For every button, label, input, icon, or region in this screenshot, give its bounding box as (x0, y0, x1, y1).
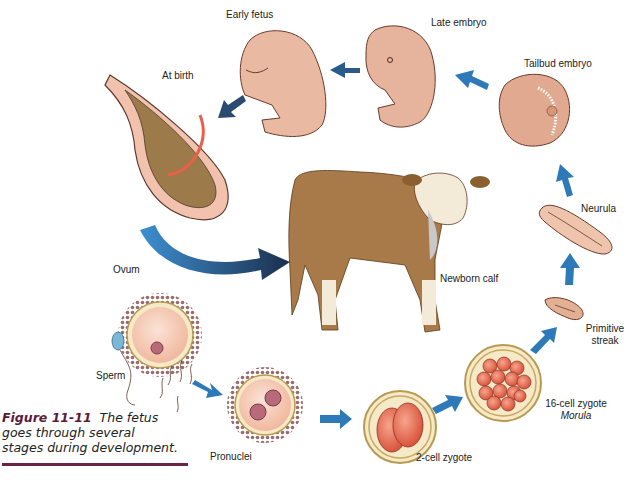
label-late-embryo: Late embryo (431, 17, 487, 29)
label-morula: Morula (536, 410, 616, 422)
caption-line-3: stages during development. (2, 440, 178, 455)
at-birth-illustration (105, 75, 228, 220)
tailbud-embryo-illustration (499, 74, 569, 146)
label-ovum: Ovum (113, 264, 140, 276)
figure-number: Figure 11-11 (2, 410, 92, 425)
morula-illustration (465, 345, 541, 421)
label-primitive-streak: Primitive streak (580, 323, 630, 347)
newborn-calf-illustration (289, 170, 490, 332)
label-at-birth: At birth (162, 70, 194, 82)
pronuclei-illustration (227, 367, 303, 443)
label-sperm: Sperm (96, 370, 125, 382)
caption-divider (2, 463, 188, 466)
label-pronuclei: Pronuclei (210, 451, 252, 463)
caption-line-2: goes through several (2, 425, 135, 440)
ovum-illustration (118, 293, 202, 377)
label-primitive-streak-line2: streak (580, 335, 630, 347)
primitive-streak-illustration (545, 298, 583, 320)
label-two-cell-zygote: 2-cell zygote (416, 452, 472, 464)
figure-caption: Figure 11-11 The fetus goes through seve… (2, 410, 192, 455)
label-neurula: Neurula (581, 203, 616, 215)
label-early-fetus: Early fetus (226, 9, 273, 21)
label-newborn-calf: Newborn calf (440, 273, 498, 285)
label-primitive-streak-line1: Primitive (580, 323, 630, 335)
early-fetus-illustration (240, 31, 326, 137)
late-embryo-illustration (366, 26, 435, 127)
label-tailbud-embryo: Tailbud embryo (524, 58, 592, 70)
label-sixteen-cell-line1: 16-cell zygote (536, 398, 616, 410)
label-sixteen-cell-zygote: 16-cell zygote Morula (536, 398, 616, 422)
caption-line-1: The fetus (100, 410, 159, 425)
